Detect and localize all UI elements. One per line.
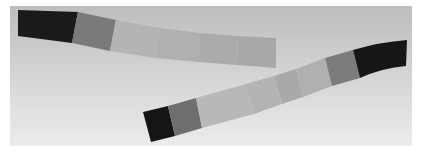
strips-illustration: [10, 6, 412, 146]
strip-segment: [198, 33, 238, 65]
strip-segment: [237, 36, 276, 68]
strip-segment: [156, 28, 200, 62]
photograph: [10, 6, 412, 146]
